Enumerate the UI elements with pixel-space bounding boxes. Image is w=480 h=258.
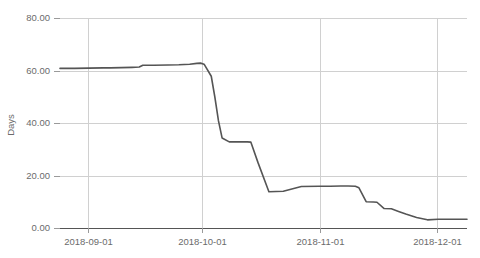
x-tick-label-2018-11-01: 2018-11-01	[297, 236, 345, 247]
x-tick-labels: 2018-09-01 2018-10-01 2018-11-01 2018-12…	[64, 236, 462, 247]
y-tick-label-20: 20.00	[26, 170, 50, 181]
x-tick-label-2018-09-01: 2018-09-01	[64, 236, 113, 247]
chart-container: 80.00 60.00 40.00 20.00 0.00 2018-09-01 …	[0, 0, 480, 258]
line-chart: 80.00 60.00 40.00 20.00 0.00 2018-09-01 …	[0, 0, 480, 258]
horizontal-gridlines	[60, 19, 467, 177]
x-tick-label-2018-12-01: 2018-12-01	[413, 236, 462, 247]
y-axis-title: Days	[5, 114, 16, 136]
y-tick-label-60: 60.00	[26, 65, 50, 76]
y-tick-label-40: 40.00	[26, 117, 50, 128]
y-tick-label-0: 0.00	[32, 222, 51, 233]
y-tick-marks	[54, 19, 60, 229]
x-tick-label-2018-10-01: 2018-10-01	[178, 236, 227, 247]
series-line-days	[60, 63, 467, 220]
y-tick-labels: 80.00 60.00 40.00 20.00 0.00	[26, 12, 50, 233]
y-tick-label-80: 80.00	[26, 12, 50, 23]
